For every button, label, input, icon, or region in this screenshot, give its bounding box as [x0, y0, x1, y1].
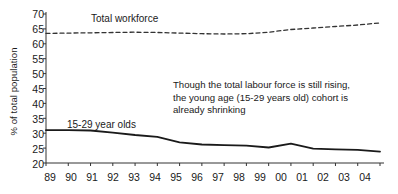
commentary-annotation: Though the total labour force is still r… [173, 79, 350, 117]
series-line-0 [46, 23, 380, 34]
total-workforce-label: Total workforce [91, 13, 158, 24]
commentary-line-3: already shrinking [173, 104, 350, 117]
series-line-1 [46, 130, 380, 152]
commentary-line-1: Though the total labour force is still r… [173, 79, 350, 92]
chart-figure: % of total population 70 65 60 55 50 45 … [0, 0, 398, 194]
young-cohort-label: 15-29 year olds [67, 119, 136, 130]
commentary-line-2: the young age (15-29 years old) cohort i… [173, 92, 350, 105]
